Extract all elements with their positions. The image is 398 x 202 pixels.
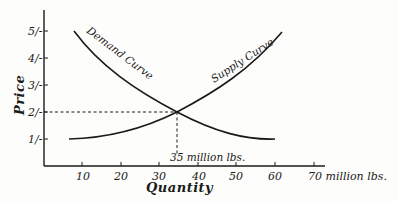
y-tick-label-2: 2/- bbox=[27, 106, 43, 119]
y-axis-title: Price bbox=[12, 75, 27, 116]
y-tick-label-5: 5/- bbox=[28, 25, 43, 38]
x-unit-label: 70 million lbs. bbox=[308, 170, 387, 183]
x-tick-label-20: 20 bbox=[113, 170, 128, 183]
x-tick-label-60: 60 bbox=[268, 170, 282, 183]
y-tick-label-3: 3/- bbox=[28, 79, 43, 92]
demand-curve-label: Demand Curve bbox=[84, 23, 156, 81]
x-tick-label-10: 10 bbox=[76, 170, 90, 183]
y-tick-label-1: 1/- bbox=[28, 133, 43, 146]
supply-curve-label: Supply Curve bbox=[209, 35, 276, 84]
x-tick-label-50: 50 bbox=[229, 170, 243, 183]
x-axis-title: Quantity bbox=[146, 180, 214, 195]
y-tick-label-4: 4/- bbox=[27, 52, 43, 65]
supply-demand-chart: 1/- 2/- 3/- 4/- 5/- Price 10 20 30 40 50… bbox=[0, 0, 398, 202]
equilibrium-quantity-label: 35 million lbs. bbox=[170, 151, 245, 163]
